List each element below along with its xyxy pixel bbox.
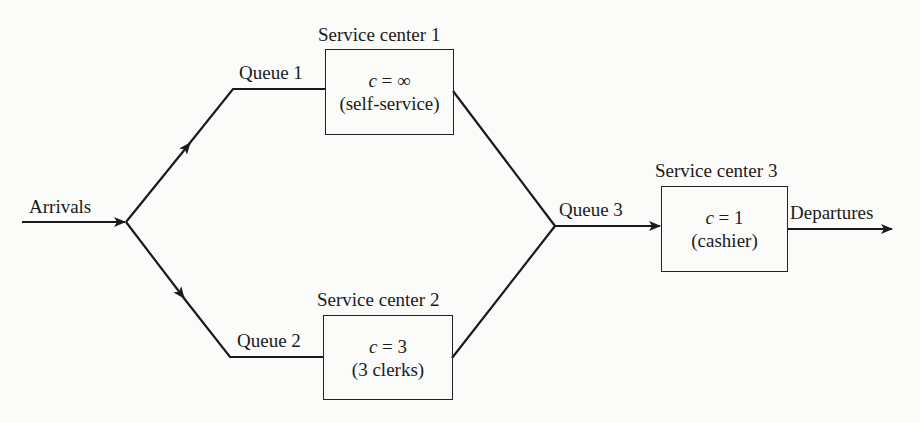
branch-upper-arrow	[126, 143, 190, 222]
departures-label: Departures	[790, 203, 873, 222]
service-center-2-title: Service center 2	[317, 290, 439, 309]
service-center-3-capacity: c = 1	[705, 206, 743, 229]
service-center-1-box: c = ∞ (self-service)	[325, 49, 454, 135]
service-center-3-box: c = 1 (cashier)	[661, 186, 788, 272]
branch-lower-arrow	[126, 222, 184, 298]
queue-2-label: Queue 2	[237, 331, 301, 350]
service-center-2-description: (3 clerks)	[352, 358, 424, 381]
merge-upper-line	[453, 91, 555, 226]
queue-3-label: Queue 3	[559, 200, 623, 219]
service-center-2-capacity: c = 3	[369, 335, 407, 358]
merge-lower-line	[452, 226, 555, 358]
queue-1-label: Queue 1	[239, 63, 303, 82]
queue-1-path	[189, 89, 325, 144]
service-center-1-title: Service center 1	[318, 25, 440, 44]
arrivals-label: Arrivals	[29, 197, 91, 216]
service-center-1-description: (self-service)	[339, 92, 439, 115]
service-center-3-description: (cashier)	[691, 229, 757, 252]
service-center-3-title: Service center 3	[655, 161, 777, 180]
service-center-2-box: c = 3 (3 clerks)	[323, 315, 453, 400]
service-center-1-capacity: c = ∞	[368, 69, 410, 92]
